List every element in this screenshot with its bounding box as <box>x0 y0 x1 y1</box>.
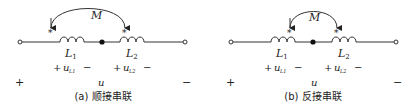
junction-dot <box>310 39 315 44</box>
polarity-marker-1: * <box>48 28 53 38</box>
inductor-label-1: L1 <box>275 47 288 61</box>
right-terminal <box>394 40 398 44</box>
svg-text:−: − <box>354 62 362 73</box>
svg-text:L1: L1 <box>279 68 287 74</box>
svg-text:−: − <box>83 62 91 73</box>
right-terminal <box>183 40 187 44</box>
svg-text:−: − <box>393 76 402 89</box>
voltage-label-uL1: + u L1 − <box>53 62 91 74</box>
voltage-label-uL2: + u L2 − <box>324 62 362 74</box>
inductor-label-2: L2 <box>125 47 138 61</box>
junction-dot <box>99 39 104 44</box>
svg-text:+: + <box>324 62 332 73</box>
mutual-label: M <box>90 9 103 22</box>
svg-text:−: − <box>143 62 151 73</box>
caption-a: (a) 顺接串联 <box>74 90 131 102</box>
svg-text:−: − <box>182 76 191 89</box>
mutual-label: M <box>308 11 321 24</box>
svg-text:+: + <box>226 76 235 89</box>
svg-text:L2: L2 <box>128 68 136 74</box>
inductor-label-2: L2 <box>337 47 350 61</box>
svg-text:−: − <box>294 62 302 73</box>
voltage-label-uL1: + u L1 − <box>264 62 302 74</box>
coupled-inductors-diagram: M * * L1 L2 + u L1 − + u L2 − + u − (a) … <box>0 0 416 112</box>
svg-text:+: + <box>15 76 24 89</box>
panel-a: M * * L1 L2 + u L1 − + u L2 − + u − (a) … <box>15 7 191 103</box>
caption-b: (b) 反接串联 <box>284 90 341 102</box>
panel-b: M * * L1 L2 + u L1 − + u L2 − + u − (b) … <box>226 11 402 102</box>
svg-text:+: + <box>264 62 272 73</box>
left-terminal <box>18 40 22 44</box>
svg-text:L1: L1 <box>68 68 76 74</box>
inductor-coil-1 <box>60 37 84 42</box>
polarity-marker-2: * <box>334 28 339 38</box>
total-voltage-label: + u − <box>15 76 191 89</box>
svg-text:L2: L2 <box>339 68 347 74</box>
svg-text:u: u <box>311 77 317 88</box>
mutual-coupling-arc <box>51 9 125 29</box>
inductor-label-1: L1 <box>64 47 77 61</box>
total-voltage-label: + u − <box>226 76 402 89</box>
polarity-marker-1: * <box>287 28 292 38</box>
svg-text:+: + <box>53 62 61 73</box>
svg-text:u: u <box>98 77 104 88</box>
svg-text:+: + <box>113 62 121 73</box>
voltage-label-uL2: + u L2 − <box>113 62 151 74</box>
left-terminal <box>229 40 233 44</box>
polarity-marker-2: * <box>122 28 127 38</box>
